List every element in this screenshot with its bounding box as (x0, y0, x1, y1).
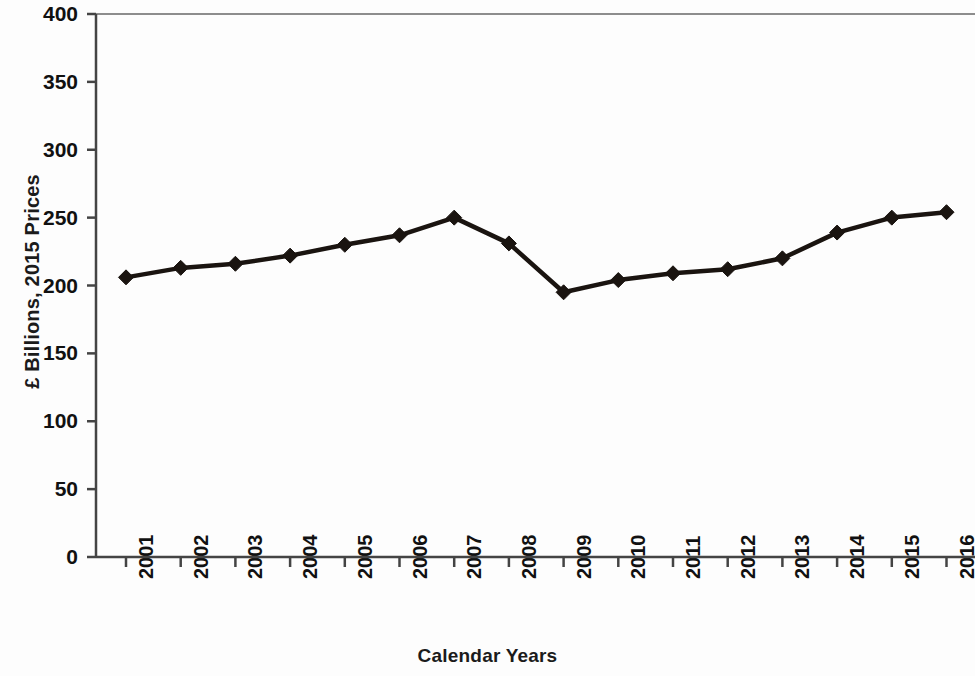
data-point-marker (611, 273, 626, 288)
data-point-marker (775, 251, 790, 266)
series-line (126, 212, 947, 292)
data-point-marker (666, 266, 681, 281)
data-point-marker (939, 205, 954, 220)
data-point-marker (884, 210, 899, 225)
data-point-marker (119, 270, 134, 285)
data-point-marker (392, 228, 407, 243)
data-point-marker (173, 260, 188, 275)
data-point-marker (720, 262, 735, 277)
axes (87, 14, 975, 567)
data-point-marker (337, 237, 352, 252)
data-point-marker (447, 210, 462, 225)
data-point-marker (228, 256, 243, 271)
data-point-marker (283, 248, 298, 263)
data-series (119, 205, 955, 300)
line-chart: £ Billions, 2015 Prices 4003503002502001… (0, 0, 975, 676)
plot-area (0, 0, 975, 676)
data-point-marker (830, 225, 845, 240)
